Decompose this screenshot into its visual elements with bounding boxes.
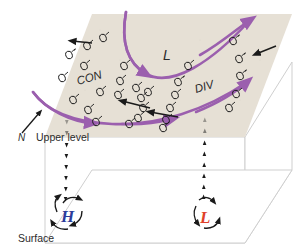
surface-high-label: H (60, 207, 75, 226)
meteorology-diagram: N Upper level L CON DIV H (0, 0, 301, 252)
north-label: N (18, 132, 26, 143)
diagram-canvas: N Upper level L CON DIV H (0, 0, 301, 252)
station-symbol (65, 49, 76, 60)
surface-label: Surface (18, 232, 54, 244)
upper-low-label: L (163, 47, 171, 63)
north-arrow (22, 112, 40, 133)
upper-level-label: Upper level (36, 131, 89, 143)
surface-low-label: L (199, 208, 210, 227)
